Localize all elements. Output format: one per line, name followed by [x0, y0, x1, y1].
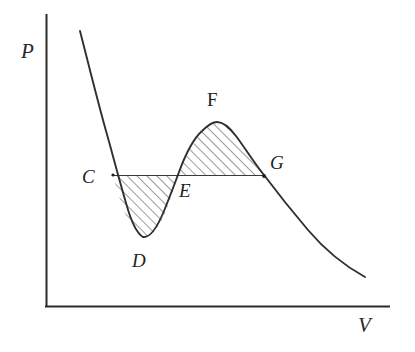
point-label-f: F: [207, 90, 218, 109]
pv-diagram-canvas: [0, 0, 415, 352]
pressure-axis-label: P: [21, 41, 34, 62]
volume-axis-label: V: [358, 315, 371, 336]
point-label-g: G: [270, 153, 284, 172]
hatched-area-lower-lobe: [100, 165, 195, 255]
point-label-d: D: [132, 251, 146, 270]
point-label-c: C: [82, 167, 95, 186]
point-marker-C: [111, 173, 114, 176]
point-marker-G: [262, 174, 266, 178]
point-label-e: E: [179, 181, 191, 200]
pv-diagram-figure: P V C D E F G: [0, 0, 415, 352]
